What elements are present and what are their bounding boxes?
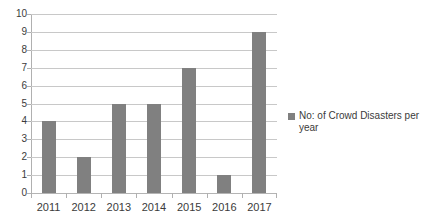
x-axis-tick-label: 2014 <box>136 200 171 214</box>
bar-slot <box>172 14 207 193</box>
bar-slot <box>101 14 136 193</box>
x-axis-tick <box>31 193 32 198</box>
x-axis-tick-label: 2012 <box>66 200 101 214</box>
x-axis-tick-label: 2016 <box>207 200 242 214</box>
bar[interactable] <box>217 175 231 193</box>
y-axis-tick <box>27 32 31 33</box>
y-axis-tick <box>27 68 31 69</box>
bar-slot <box>66 14 101 193</box>
bar-chart: 012345678910 201120122013201420152016201… <box>0 0 422 222</box>
y-axis-tick <box>27 139 31 140</box>
x-axis-tick <box>242 193 243 198</box>
x-axis-tick <box>101 193 102 198</box>
y-axis-tick-label: 7 <box>3 63 27 73</box>
bar-slot <box>242 14 277 193</box>
x-axis-tick-label: 2017 <box>242 200 277 214</box>
y-axis-tick-label: 10 <box>3 9 27 19</box>
y-axis-tick <box>27 104 31 105</box>
bar-slot <box>136 14 171 193</box>
bar[interactable] <box>42 121 56 193</box>
bar[interactable] <box>252 32 266 193</box>
y-axis-tick-label: 2 <box>3 152 27 162</box>
x-axis-tick <box>276 193 277 198</box>
x-axis-tick-label: 2013 <box>101 200 136 214</box>
x-axis-tick <box>66 193 67 198</box>
chart-legend: No: of Crowd Disasters per year <box>288 110 420 134</box>
bar[interactable] <box>112 104 126 194</box>
y-axis-tick-label: 3 <box>3 134 27 144</box>
y-axis-tick-label: 5 <box>3 99 27 109</box>
y-axis-tick-label: 9 <box>3 27 27 37</box>
y-axis-tick-labels: 012345678910 <box>0 14 27 193</box>
y-axis-tick <box>27 86 31 87</box>
x-axis-tick-label: 2011 <box>31 200 66 214</box>
y-axis-tick <box>27 193 31 194</box>
legend-entry[interactable]: No: of Crowd Disasters per year <box>288 110 420 134</box>
x-axis-tick <box>207 193 208 198</box>
y-axis-tick-label: 4 <box>3 116 27 126</box>
y-axis-tick <box>27 175 31 176</box>
y-axis-tick-label: 0 <box>3 188 27 198</box>
y-axis-tick-label: 6 <box>3 81 27 91</box>
y-axis-tick-label: 8 <box>3 45 27 55</box>
bar[interactable] <box>77 157 91 193</box>
x-axis-tick-labels: 2011201220132014201520162017 <box>31 200 277 216</box>
bar-slot <box>31 14 66 193</box>
y-axis-tick-label: 1 <box>3 170 27 180</box>
y-axis-tick <box>27 157 31 158</box>
legend-swatch-icon <box>288 113 295 120</box>
x-axis-tick <box>136 193 137 198</box>
x-axis-tick-label: 2015 <box>172 200 207 214</box>
y-axis-tick <box>27 50 31 51</box>
chart-title <box>100 0 300 4</box>
legend-label: No: of Crowd Disasters per year <box>299 110 420 134</box>
y-axis-tick <box>27 14 31 15</box>
x-axis-ticks <box>31 193 277 198</box>
bar-slot <box>207 14 242 193</box>
y-axis-tick <box>27 121 31 122</box>
x-axis-tick <box>172 193 173 198</box>
plot-area <box>31 14 277 193</box>
bar[interactable] <box>147 104 161 194</box>
bar[interactable] <box>182 68 196 193</box>
